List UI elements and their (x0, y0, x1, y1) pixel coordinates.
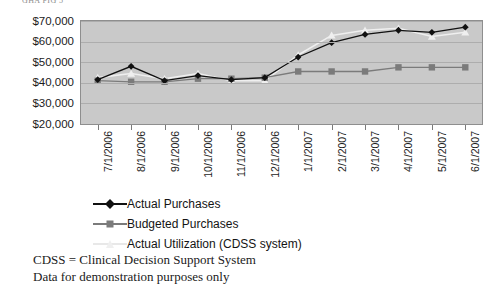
x-axis-tick-label: 6/1/2007 (469, 131, 481, 172)
legend-marker-diamond-icon (105, 199, 115, 209)
data-point-marker (362, 68, 368, 74)
data-point-marker (128, 63, 135, 70)
gridline (81, 42, 482, 43)
y-axis-tick-label: $60,000 (8, 36, 74, 47)
legend-label: Actual Utilization (CDSS system) (127, 237, 302, 251)
data-point-marker (462, 64, 468, 70)
data-point-marker (328, 68, 334, 74)
gridline (81, 103, 482, 104)
legend-marker-triangle-icon (106, 240, 114, 248)
y-axis-labels: $70,000$60,000$50,000$40,000$30,000$20,0… (8, 14, 74, 132)
series-layer (81, 21, 482, 124)
x-axis-tick-label: 7/1/2006 (102, 131, 114, 172)
legend-label: Budgeted Purchases (127, 217, 238, 231)
x-axis-tick-label: 11/1/2006 (235, 131, 247, 177)
x-axis-tick-label: 3/1/2007 (369, 131, 381, 172)
legend-marker-square-icon (107, 221, 114, 228)
x-axis-tick-label: 1/1/2007 (302, 131, 314, 172)
x-axis-tick (332, 125, 333, 130)
x-axis-tick (198, 125, 199, 130)
x-axis-tick (131, 125, 132, 130)
figure-caption-cropped: GHA FIG 5 (22, 0, 222, 5)
y-axis-tick-label: $20,000 (8, 119, 74, 130)
x-axis-tick (98, 125, 99, 130)
gridline (81, 21, 482, 22)
x-axis-tick-label: 4/1/2007 (402, 131, 414, 172)
x-axis-labels: 7/1/20068/1/20069/1/200610/1/200611/1/20… (80, 131, 483, 181)
x-axis-tick (231, 125, 232, 130)
data-point-marker (395, 64, 401, 70)
footnotes: CDSS = Clinical Decision Support SystemD… (33, 251, 473, 285)
y-axis-tick-label: $40,000 (8, 77, 74, 88)
x-axis-tick-label: 2/1/2007 (336, 131, 348, 172)
data-point-marker (428, 29, 435, 36)
plot-area (80, 20, 483, 125)
x-axis-tick (432, 125, 433, 130)
series-line (98, 28, 466, 80)
data-point-marker (128, 79, 134, 85)
x-axis-tick (265, 125, 266, 130)
data-point-marker (429, 64, 435, 70)
x-axis-tick-label: 9/1/2006 (169, 131, 181, 172)
x-axis-tick-label: 8/1/2006 (135, 131, 147, 172)
gridline (81, 62, 482, 63)
x-axis-tick (365, 125, 366, 130)
legend-item[interactable]: Actual Purchases (93, 194, 423, 214)
data-point-marker (462, 24, 469, 31)
x-axis-tick (298, 125, 299, 130)
x-axis-tick-label: 12/1/2006 (269, 131, 281, 178)
y-axis-tick-label: $50,000 (8, 57, 74, 68)
chart-legend: Actual PurchasesBudgeted PurchasesActual… (93, 194, 423, 254)
legend-label: Actual Purchases (127, 197, 220, 211)
x-axis-tick (165, 125, 166, 130)
legend-item[interactable]: Budgeted Purchases (93, 214, 423, 234)
legend-key (93, 197, 127, 211)
series-line (98, 27, 466, 80)
x-axis-tick-label: 5/1/2007 (436, 131, 448, 172)
y-axis-tick-label: $30,000 (8, 98, 74, 109)
x-axis-tick (465, 125, 466, 130)
footnote-line: CDSS = Clinical Decision Support System (33, 251, 473, 268)
x-axis-tick (398, 125, 399, 130)
plot-inner (81, 21, 482, 124)
footnote-line: Data for demonstration purposes only (33, 268, 473, 285)
legend-key (93, 217, 127, 231)
x-axis-tick-label: 10/1/2006 (202, 131, 214, 178)
data-point-marker (295, 54, 302, 61)
legend-key (93, 237, 127, 251)
series-line (98, 67, 466, 82)
data-point-marker (295, 68, 301, 74)
gridline (81, 83, 482, 84)
y-axis-tick-label: $70,000 (8, 16, 74, 27)
chart-figure: GHA FIG 5 $70,000$60,000$50,000$40,000$3… (0, 0, 499, 285)
